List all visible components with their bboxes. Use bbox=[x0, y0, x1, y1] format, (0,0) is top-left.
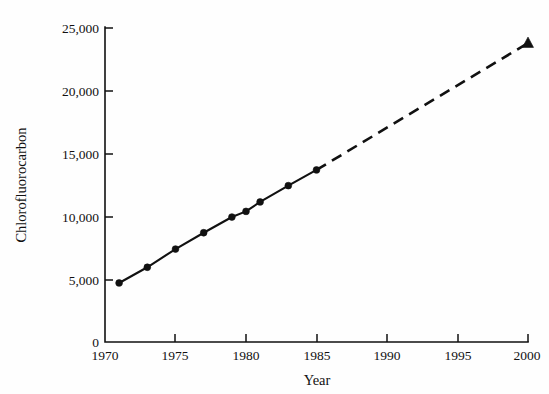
x-tick-label-1975: 1975 bbox=[162, 348, 189, 363]
x-tick-label-1970: 1970 bbox=[92, 348, 119, 363]
chlorofluorocarbon-line-chart: 25,000 20,000 15,000 10,000 5,000 0 1970… bbox=[0, 0, 549, 394]
chart-figure: 25,000 20,000 15,000 10,000 5,000 0 1970… bbox=[0, 0, 549, 394]
data-point-marker bbox=[229, 214, 236, 221]
y-tick-label-20000: 20,000 bbox=[62, 84, 99, 99]
y-tick-label-15000: 15,000 bbox=[62, 147, 99, 162]
y-tick-label-25000: 25,000 bbox=[62, 21, 99, 36]
x-axis-title: Year bbox=[304, 372, 331, 388]
y-axis-title: Chlorofluorocarbon bbox=[13, 127, 29, 243]
data-point-marker bbox=[257, 199, 264, 206]
data-point-marker bbox=[116, 280, 123, 287]
data-point-marker bbox=[313, 167, 320, 174]
data-point-marker bbox=[200, 229, 207, 236]
x-tick-label-1995: 1995 bbox=[445, 348, 472, 363]
x-tick-label-2000: 2000 bbox=[514, 348, 541, 363]
data-point-marker bbox=[172, 246, 179, 253]
data-point-marker bbox=[243, 208, 250, 215]
data-point-marker bbox=[144, 264, 151, 271]
x-tick-label-1990: 1990 bbox=[374, 348, 401, 363]
chart-background bbox=[0, 0, 549, 394]
x-tick-label-1980: 1980 bbox=[233, 348, 260, 363]
data-point-marker bbox=[285, 182, 292, 189]
y-tick-label-5000: 5,000 bbox=[69, 273, 100, 288]
y-tick-label-10000: 10,000 bbox=[62, 210, 99, 225]
x-tick-label-1985: 1985 bbox=[304, 348, 331, 363]
